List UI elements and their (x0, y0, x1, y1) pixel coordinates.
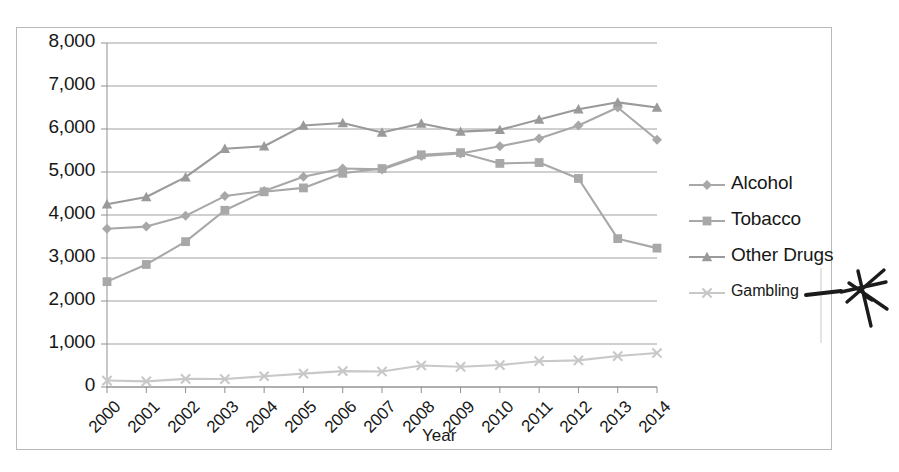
y-tick-label: 5,000 (48, 159, 95, 181)
series-markers (102, 97, 662, 386)
chart-frame: 8,0007,0006,0005,0004,0003,0002,0001,000… (16, 27, 832, 450)
data-point-square (495, 159, 504, 168)
chart-page: 8,0007,0006,0005,0004,0003,0002,0001,000… (0, 0, 899, 472)
data-point-square (535, 158, 544, 167)
y-tick-label: 3,000 (48, 245, 95, 267)
data-point-square (417, 150, 426, 159)
series-line-other-drugs (107, 102, 657, 204)
data-point-triangle (141, 192, 151, 201)
data-point-diamond (181, 211, 191, 221)
annotation-star-stroke-4 (849, 283, 887, 309)
data-point-triangle (416, 118, 426, 127)
legend-item-tobacco[interactable]: Tobacco (731, 208, 801, 230)
data-point-square (703, 217, 712, 226)
data-point-diamond (495, 141, 505, 151)
annotation-star-stroke-1 (858, 271, 871, 326)
data-point-square (142, 260, 151, 269)
annotation-star-stroke-2 (841, 282, 886, 292)
y-tick-label: 1,000 (48, 331, 95, 353)
data-point-square (456, 148, 465, 157)
data-point-diamond (141, 222, 151, 232)
data-point-square (338, 169, 347, 178)
data-point-square (260, 187, 269, 196)
data-point-square (574, 174, 583, 183)
data-point-diamond (534, 133, 544, 143)
legend-markers (689, 180, 725, 298)
data-point-diamond (102, 224, 112, 234)
legend-item-other-drugs[interactable]: Other Drugs (731, 244, 833, 266)
line-chart (17, 28, 833, 451)
data-point-diamond (220, 191, 230, 201)
y-tick-label: 0 (85, 374, 95, 396)
data-point-square (299, 184, 308, 193)
data-point-square (220, 206, 229, 215)
y-tick-label: 8,000 (48, 30, 95, 52)
y-tick-label: 2,000 (48, 288, 95, 310)
y-tick-label: 6,000 (48, 116, 95, 138)
data-point-square (181, 237, 190, 246)
y-tick-label: 7,000 (48, 73, 95, 95)
data-point-square (103, 277, 112, 286)
data-point-square (613, 234, 622, 243)
data-point-diamond (702, 180, 712, 190)
legend-item-gambling[interactable]: Gambling (731, 282, 799, 300)
annotation-star-stroke-3 (847, 270, 884, 302)
annotation-star-stroke-5 (865, 296, 872, 300)
x-axis-title: Year (422, 426, 456, 446)
y-tick-label: 4,000 (48, 202, 95, 224)
data-point-square (653, 244, 662, 253)
data-point-diamond (298, 172, 308, 182)
legend-item-alcohol[interactable]: Alcohol (731, 172, 793, 194)
data-point-square (378, 164, 387, 173)
